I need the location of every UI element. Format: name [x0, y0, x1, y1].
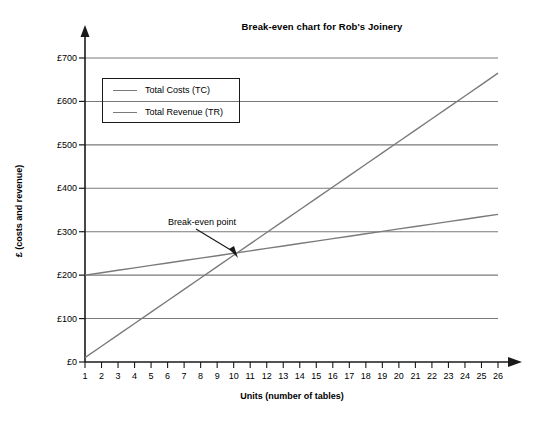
y-tick-label: £400 — [31, 183, 77, 193]
chart-title: Break-even chart for Rob's Joinery — [0, 21, 548, 32]
y-tick-label: £100 — [31, 314, 77, 324]
legend-item-total-costs: Total Costs (TC) — [103, 79, 241, 101]
y-tick-label: £700 — [31, 53, 77, 63]
y-ticks-group — [79, 58, 85, 362]
chart-canvas — [0, 0, 548, 430]
y-tick-label: £600 — [31, 96, 77, 106]
x-ticks-group — [85, 362, 498, 368]
x-axis-arrow-icon — [508, 357, 522, 367]
y-tick-label: £0 — [31, 357, 77, 367]
legend-item-label: Total Costs (TC) — [145, 85, 210, 95]
break-even-chart: Break-even chart for Rob's Joinery £ (co… — [0, 0, 548, 430]
legend-item-total-revenue: Total Revenue (TR) — [103, 101, 241, 123]
series-line — [85, 214, 498, 275]
break-even-annotation-label: Break-even point — [168, 217, 236, 227]
y-axis-title: £ (costs and revenue) — [14, 126, 24, 296]
x-axis-title: Units (number of tables) — [182, 391, 402, 401]
break-even-arrow-shaft — [196, 229, 234, 252]
x-tick-label: 26 — [488, 371, 508, 381]
y-tick-label: £200 — [31, 270, 77, 280]
y-tick-label: £300 — [31, 227, 77, 237]
legend-item-label: Total Revenue (TR) — [145, 107, 223, 117]
legend-line-icon — [113, 90, 137, 91]
legend-line-icon — [113, 112, 137, 113]
y-tick-label: £500 — [31, 140, 77, 150]
chart-legend: Total Costs (TC) Total Revenue (TR) — [102, 78, 240, 123]
